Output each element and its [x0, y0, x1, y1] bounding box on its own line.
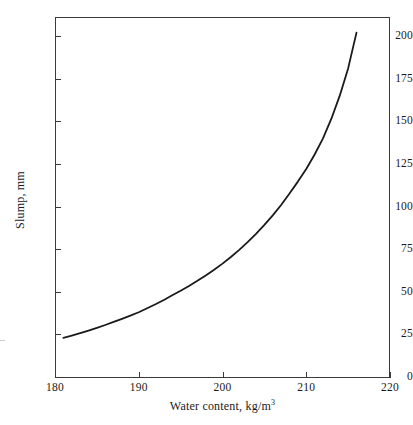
x-axis-title-text: Water content, kg/m — [170, 399, 271, 413]
x-tick-200 — [223, 372, 224, 378]
y-tick-label-175: 175 — [369, 73, 413, 85]
x-tick-180 — [55, 372, 56, 378]
y-tick-200 — [55, 36, 61, 37]
y-tick-label-75: 75 — [369, 243, 413, 255]
x-axis-title-superscript: 3 — [271, 398, 275, 407]
y-tick-25 — [55, 334, 61, 335]
y-tick-label-100: 100 — [369, 201, 413, 213]
page-margin-mark — [0, 340, 5, 341]
y-tick-label-200: 200 — [369, 30, 413, 42]
slump-curve — [55, 17, 390, 378]
x-tick-label-180: 180 — [35, 381, 75, 393]
y-tick-50 — [55, 292, 61, 293]
x-tick-220 — [390, 372, 391, 378]
x-tick-label-190: 190 — [119, 381, 159, 393]
y-tick-150 — [55, 121, 61, 122]
x-tick-label-200: 200 — [203, 381, 243, 393]
x-axis-title: Water content, kg/m3 — [55, 399, 390, 413]
y-tick-100 — [55, 207, 61, 208]
y-tick-label-125: 125 — [369, 158, 413, 170]
y-axis-title-text: Slump, mm — [13, 171, 28, 229]
x-tick-label-220: 220 — [370, 381, 410, 393]
y-tick-175 — [55, 79, 61, 80]
y-tick-75 — [55, 249, 61, 250]
x-tick-210 — [306, 372, 307, 378]
y-tick-125 — [55, 164, 61, 165]
y-tick-label-50: 50 — [369, 286, 413, 298]
x-tick-label-210: 210 — [286, 381, 326, 393]
y-tick-label-25: 25 — [369, 328, 413, 340]
y-tick-label-150: 150 — [369, 115, 413, 127]
x-tick-190 — [139, 372, 140, 378]
y-axis-title: Slump, mm — [12, 140, 28, 260]
chart-figure: 0255075100125150175200 180190200210220 W… — [0, 0, 413, 425]
